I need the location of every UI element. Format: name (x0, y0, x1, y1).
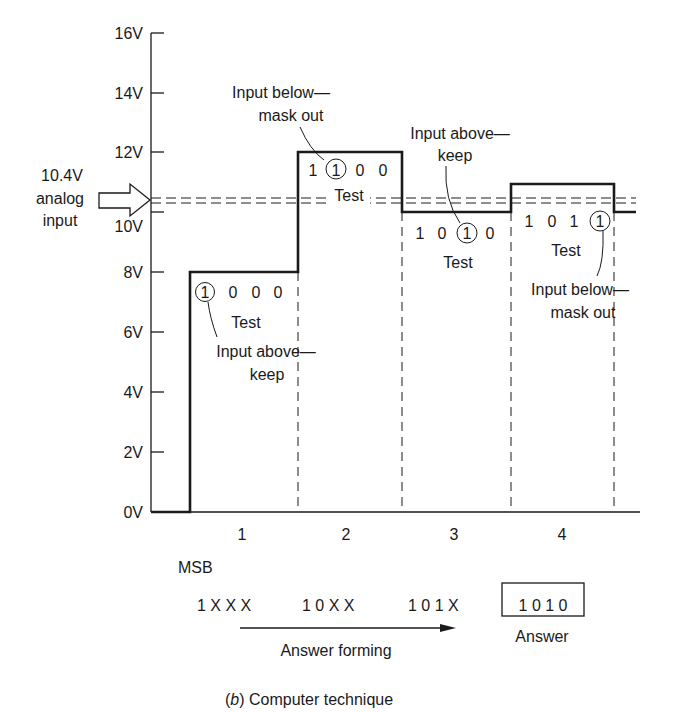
svg-text:Test: Test (551, 242, 581, 259)
svg-text:0: 0 (486, 225, 495, 242)
svg-text:input: input (43, 212, 78, 229)
answer-forming-label: Answer forming (280, 642, 391, 659)
y-tick-6: 6V (123, 324, 143, 341)
answer-sequence: MSB 1 X X X 1 0 X X 1 0 1 X 1 0 1 0 Answ… (178, 559, 584, 659)
svg-text:1: 1 (332, 162, 341, 179)
input-arrow-icon (99, 184, 150, 216)
svg-text:0: 0 (379, 162, 388, 179)
y-tick-16: 16V (115, 25, 144, 42)
svg-text:Test: Test (334, 187, 364, 204)
arrow-right-icon (440, 624, 456, 632)
svg-text:0: 0 (548, 213, 557, 230)
y-tick-4: 4V (123, 384, 143, 401)
x-tick-2: 2 (342, 526, 351, 543)
y-tick-2: 2V (123, 444, 143, 461)
svg-text:1: 1 (463, 225, 472, 242)
svg-text:analog: analog (36, 190, 84, 207)
svg-text:mask out: mask out (551, 304, 616, 321)
svg-text:Input below—: Input below— (232, 84, 330, 101)
figure-caption: (b) Computer technique (225, 691, 393, 708)
svg-text:Test: Test (443, 254, 473, 271)
input-label: 10.4V analog input (36, 167, 84, 229)
y-tick-12: 12V (115, 144, 144, 161)
step-2-annotation: Input below— mask out 1 1 0 0 Test (232, 84, 387, 204)
svg-text:0: 0 (438, 225, 447, 242)
code-step-2: 1 0 X X (302, 597, 355, 614)
svg-text:1: 1 (525, 213, 534, 230)
answer-label: Answer (515, 628, 569, 645)
svg-text:1: 1 (309, 162, 318, 179)
code-step-1: 1 X X X (197, 597, 252, 614)
dac-staircase (151, 152, 636, 512)
svg-text:0: 0 (252, 284, 261, 301)
svg-text:10.4V: 10.4V (41, 167, 83, 184)
answer-value: 1 0 1 0 (519, 597, 568, 614)
svg-text:Test: Test (231, 314, 261, 331)
svg-text:mask out: mask out (259, 107, 324, 124)
svg-text:1: 1 (416, 225, 425, 242)
y-tick-14: 14V (115, 85, 144, 102)
y-tick-8: 8V (123, 264, 143, 281)
x-tick-4: 4 (558, 526, 567, 543)
y-tick-labels: 16V 14V 12V 10V 8V 6V 4V 2V 0V (115, 25, 144, 521)
svg-text:(b) Computer technique: (b) Computer technique (225, 691, 393, 708)
svg-text:1: 1 (596, 213, 605, 230)
y-tick-0: 0V (123, 504, 143, 521)
svg-text:1: 1 (570, 213, 579, 230)
svg-text:0: 0 (356, 162, 365, 179)
svg-text:Input above—: Input above— (216, 343, 316, 360)
svg-text:keep: keep (250, 366, 285, 383)
code-step-3: 1 0 1 X (408, 597, 459, 614)
svg-text:0: 0 (229, 284, 238, 301)
x-tick-1: 1 (238, 526, 247, 543)
y-axis (151, 33, 164, 512)
step-4-annotation: 1 0 1 1 Test Input below— mask out (525, 211, 629, 321)
y-tick-10: 10V (115, 218, 144, 235)
msb-label: MSB (178, 559, 213, 576)
x-tick-labels: 1 2 3 4 (238, 526, 567, 543)
sar-adc-diagram: 16V 14V 12V 10V 8V 6V 4V 2V 0V 1 2 3 4 1… (0, 0, 678, 712)
svg-text:0: 0 (274, 284, 283, 301)
svg-text:Input above—: Input above— (410, 125, 510, 142)
analog-input-level (151, 198, 636, 203)
x-tick-3: 3 (450, 526, 459, 543)
svg-text:Input below—: Input below— (531, 281, 629, 298)
svg-text:keep: keep (438, 147, 473, 164)
svg-text:1: 1 (201, 284, 210, 301)
